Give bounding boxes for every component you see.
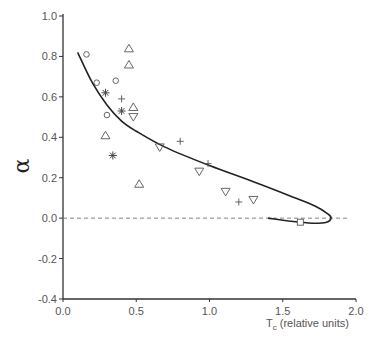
triangle-up-marker: [129, 103, 138, 111]
x-tick-label: 1.0: [202, 305, 217, 317]
x-axis-title: Tc (relative units): [266, 317, 349, 332]
y-axis-title: α: [9, 158, 34, 173]
x-tick-label: 0.0: [55, 305, 70, 317]
y-tick-label: 1.0: [42, 10, 57, 22]
triangle-down-marker: [129, 114, 138, 122]
square-marker: [297, 219, 303, 225]
y-tick-label: 0.0: [42, 212, 57, 224]
circle-marker: [113, 78, 119, 84]
data-points: [84, 44, 304, 225]
asterisk-marker: [109, 151, 117, 159]
triangle-down-marker: [249, 196, 258, 204]
triangle-up-marker: [124, 44, 133, 52]
axes: 0.00.51.01.52.01.00.80.60.40.20.0-0.2-0.…: [38, 10, 364, 317]
x-axis-title-suffix: (relative units): [277, 317, 349, 329]
triangle-down-marker: [195, 168, 204, 176]
triangle-up-marker: [101, 131, 110, 139]
x-tick-label: 2.0: [348, 305, 363, 317]
circle-marker: [94, 80, 100, 86]
x-tick-label: 1.5: [275, 305, 290, 317]
y-tick-label: -0.2: [38, 253, 57, 265]
circle-marker: [84, 52, 90, 58]
y-tick-label: -0.4: [38, 293, 57, 305]
plus-marker: [235, 198, 242, 205]
y-tick-label: 0.8: [42, 50, 57, 62]
circle-marker: [104, 112, 110, 118]
y-tick-label: 0.2: [42, 172, 57, 184]
triangle-up-marker: [124, 61, 133, 68]
asterisk-marker: [101, 89, 109, 97]
y-tick-label: 0.4: [42, 131, 57, 143]
y-tick-label: 0.6: [42, 91, 57, 103]
plus-marker: [118, 95, 125, 102]
triangle-down-marker: [221, 188, 230, 196]
asterisk-marker: [118, 107, 126, 115]
scatter-chart: 0.00.51.01.52.01.00.80.60.40.20.0-0.2-0.…: [0, 0, 376, 347]
x-tick-label: 0.5: [129, 305, 144, 317]
plus-marker: [177, 138, 184, 145]
triangle-up-marker: [135, 180, 144, 188]
